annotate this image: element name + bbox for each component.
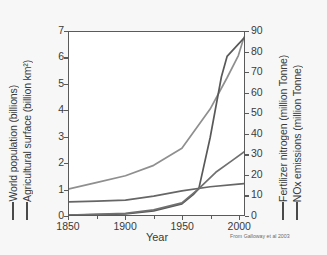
right-tick-mark — [245, 175, 249, 176]
right-axis-title-nox: NOx emissions (million Tonne) — [291, 65, 303, 202]
legend-nox-emissions: NOx emissions (million Tonne) — [291, 14, 303, 224]
legend-dash-nox-icon — [296, 202, 298, 220]
right-tick-label: 70 — [251, 65, 263, 77]
x-tick-label: 1850 — [56, 220, 79, 232]
right-tick-mark — [245, 216, 249, 217]
series-lines — [69, 32, 244, 215]
legend-fertilizer-nitrogen: Fertilizer nitrogen (million Tonne) — [277, 14, 289, 224]
x-minor-tick-mark — [211, 216, 212, 219]
series-line — [69, 38, 244, 215]
right-tick-label: 30 — [251, 147, 263, 159]
right-tick-label: 40 — [251, 127, 263, 139]
left-axis-titles: World population (billions) Agricultural… — [6, 14, 34, 224]
right-tick-mark — [245, 93, 249, 94]
right-axis-title-fertilizer: Fertilizer nitrogen (million Tonne) — [277, 55, 289, 202]
left-tick-label: 6 — [50, 50, 64, 62]
right-axis-titles: Fertilizer nitrogen (million Tonne) NOx … — [276, 14, 304, 224]
right-tick-mark — [245, 154, 249, 155]
left-tick-label: 2 — [50, 156, 64, 168]
left-axis-title-agriculture: Agricultural surface (billion km²) — [21, 60, 33, 202]
right-tick-mark — [245, 113, 249, 114]
right-tick-mark — [245, 195, 249, 196]
x-tick-mark — [68, 216, 69, 220]
left-tick-label: 4 — [50, 103, 64, 115]
left-tick-label: 7 — [50, 24, 64, 36]
x-tick-label: 2000 — [228, 220, 251, 232]
left-tick-label: 3 — [50, 130, 64, 142]
x-tick-label: 1950 — [171, 220, 194, 232]
plot-area — [68, 31, 245, 216]
x-tick-label: 1900 — [113, 220, 136, 232]
left-tick-label: 1 — [50, 183, 64, 195]
x-tick-mark — [239, 216, 240, 220]
left-axis-title-population: World population (billions) — [7, 85, 19, 202]
right-tick-mark — [245, 31, 249, 32]
legend-dash-agriculture-icon — [26, 202, 28, 220]
series-line — [69, 37, 244, 189]
right-tick-label: 90 — [251, 24, 263, 36]
legend-dash-fertilizer-icon — [282, 202, 284, 220]
right-tick-label: 0 — [251, 209, 257, 221]
right-tick-label: 20 — [251, 168, 263, 180]
right-tick-mark — [245, 72, 249, 73]
series-line — [69, 184, 244, 202]
x-minor-tick-mark — [97, 216, 98, 219]
right-tick-label: 50 — [251, 106, 263, 118]
x-tick-mark — [125, 216, 126, 220]
right-tick-label: 10 — [251, 188, 263, 200]
x-minor-tick-mark — [154, 216, 155, 219]
right-tick-mark — [245, 134, 249, 135]
source-credit: From Galloway et al 2003 — [230, 233, 290, 239]
legend-agricultural-surface: Agricultural surface (billion km²) — [21, 14, 33, 224]
x-axis-label: Year — [146, 231, 168, 243]
left-tick-label: 5 — [50, 77, 64, 89]
right-tick-label: 80 — [251, 45, 263, 57]
x-tick-mark — [182, 216, 183, 220]
right-tick-mark — [245, 52, 249, 53]
legend-dash-population-icon — [12, 202, 14, 220]
legend-world-population: World population (billions) — [7, 14, 19, 224]
figure: World population (billions) Agricultural… — [0, 0, 327, 255]
right-tick-label: 60 — [251, 86, 263, 98]
